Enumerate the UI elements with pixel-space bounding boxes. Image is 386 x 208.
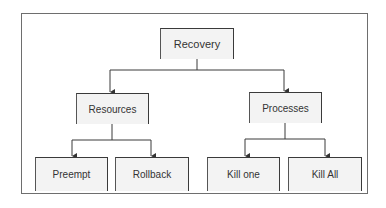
node-preempt: Preempt [35, 157, 108, 191]
node-rollback: Rollback [115, 157, 189, 191]
node-recovery: Recovery [160, 28, 234, 59]
node-resources: Resources [76, 93, 149, 124]
node-kill-all: Kill All [288, 157, 362, 191]
node-processes: Processes [249, 92, 322, 123]
node-kill-one: Kill one [207, 157, 280, 191]
